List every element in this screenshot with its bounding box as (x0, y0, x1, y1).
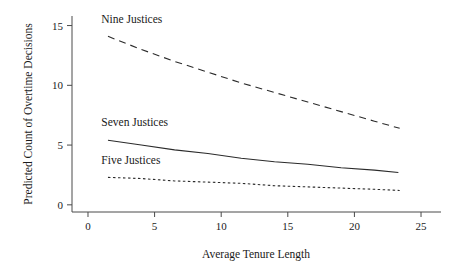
series-annotation-nine-justices: Nine Justices (101, 13, 163, 25)
x-tick-label: 0 (85, 220, 91, 232)
series-annotation-seven-justices: Seven Justices (101, 116, 168, 128)
series-annotations: Nine JusticesSeven JusticesFive Justices (101, 13, 168, 166)
series-lines (108, 36, 400, 190)
x-axis-group: 0510152025 (72, 212, 441, 232)
y-tick-label: 0 (58, 199, 64, 211)
x-tick-label: 15 (282, 220, 294, 232)
x-tick-label: 5 (152, 220, 158, 232)
y-tick-label: 5 (58, 139, 64, 151)
x-tick-labels: 0510152025 (85, 220, 427, 232)
x-tick-label: 25 (416, 220, 428, 232)
y-tick-label: 15 (52, 20, 64, 32)
chart-canvas: 051015 0510152025 Nine JusticesSeven Jus… (0, 0, 462, 274)
y-axis-title: Predicted Count of Overtime Decisions (22, 23, 34, 205)
y-tick-labels: 051015 (52, 20, 64, 211)
series-annotation-five-justices: Five Justices (101, 154, 161, 166)
y-tick-marks (67, 26, 72, 205)
x-tick-label: 10 (216, 220, 228, 232)
series-line-nine-justices (108, 36, 400, 128)
x-tick-marks (88, 212, 421, 217)
chart-figure: 051015 0510152025 Nine JusticesSeven Jus… (0, 0, 462, 274)
y-axis-group: 051015 (52, 16, 72, 212)
x-tick-label: 20 (349, 220, 361, 232)
series-line-five-justices (108, 177, 400, 190)
x-axis-title: Average Tenure Length (202, 248, 310, 261)
y-tick-label: 10 (52, 79, 64, 91)
